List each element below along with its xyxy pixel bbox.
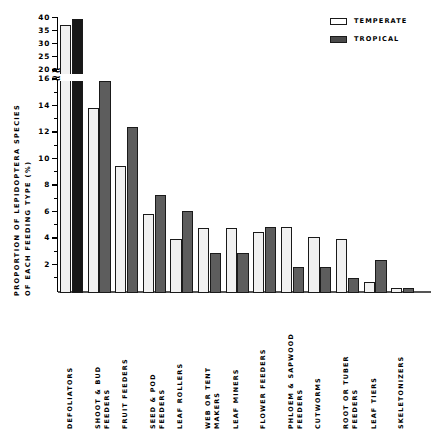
bar-tropical-10 <box>348 278 359 293</box>
y-tick-label-text: 35 <box>26 26 50 35</box>
y-tick-2 <box>52 264 57 265</box>
bar-temperate-7 <box>253 232 264 293</box>
y-tick-label-16: 16 <box>26 74 50 83</box>
y-tick-label-text: 6 <box>26 207 50 216</box>
category-label-line: LEAF MINERS <box>232 368 240 429</box>
category-label-line: DEFOLIATORS <box>66 367 74 429</box>
category-label-line: SHOOT & BUD <box>94 366 102 429</box>
y-tick-10 <box>52 158 57 159</box>
y-tick-12 <box>52 131 57 132</box>
category-label-line: MAKERS <box>213 392 221 429</box>
y-tick-label-6: 6 <box>26 207 50 216</box>
y-minor-tick-7 <box>54 198 58 199</box>
category-label-line: FRUIT FEEDERS <box>121 358 129 429</box>
bar-temperate-5 <box>198 228 209 293</box>
y-tick-label-35: 35 <box>26 26 50 35</box>
bar-tropical-0-lower <box>72 81 83 293</box>
y-tick-label-40: 40 <box>26 13 50 22</box>
y-tick-label-8: 8 <box>26 180 50 189</box>
plot-area <box>58 14 430 292</box>
bar-temperate-9 <box>308 237 319 293</box>
y-tick-40 <box>52 17 57 18</box>
y-tick-label-12: 12 <box>26 127 50 136</box>
bar-temperate-4 <box>170 239 181 293</box>
x-axis-category-labels: DEFOLIATORSSHOOT & BUDFEEDERSFRUIT FEEDE… <box>58 293 431 433</box>
y-tick-14 <box>52 105 57 106</box>
y-tick-label-10: 10 <box>26 154 50 163</box>
bar-temperate-0-upper <box>60 25 71 74</box>
bar-tropical-5 <box>210 253 221 293</box>
y-tick-label-text: 10 <box>26 154 50 163</box>
category-label-line: CUTWORMS <box>314 377 322 429</box>
category-label-line: SKELETONIZERS <box>397 356 405 429</box>
bar-tropical-9 <box>320 267 331 294</box>
y-tick-4 <box>52 237 57 238</box>
bar-tropical-0-upper <box>72 19 83 74</box>
y-tick-25 <box>52 56 57 57</box>
category-label-line: LEAF TIERS <box>370 377 378 429</box>
bar-temperate-8 <box>281 227 292 293</box>
y-tick-label-text: 14 <box>26 101 50 110</box>
y-tick-30 <box>52 43 57 44</box>
bar-temperate-0-lower <box>60 81 71 293</box>
y-tick-label-25: 25 <box>26 52 50 61</box>
legend-swatch-tropical <box>330 36 347 43</box>
bar-temperate-11 <box>364 282 375 293</box>
y-minor-tick-9 <box>54 171 58 172</box>
y-minor-tick-1 <box>54 277 58 278</box>
y-tick-label-text: 30 <box>26 39 50 48</box>
y-axis-title-line1: PROPORTION OF LEPIDOPTERA SPECIES <box>13 104 21 296</box>
category-label-line: FEEDERS <box>296 389 304 429</box>
bar-temperate-6 <box>226 228 237 293</box>
y-minor-tick-13 <box>54 118 58 119</box>
bar-tropical-1 <box>99 81 110 293</box>
y-tick-label-2: 2 <box>26 260 50 269</box>
y-tick-label-4: 4 <box>26 233 50 242</box>
y-minor-tick-11 <box>54 145 58 146</box>
y-tick-label-text: 4 <box>26 233 50 242</box>
bar-tropical-3 <box>155 195 166 293</box>
category-label-line: FLOWER FEEDERS <box>259 348 267 429</box>
legend-swatch-temperate <box>330 18 347 25</box>
y-minor-tick-3 <box>54 251 58 252</box>
bar-temperate-2 <box>115 166 126 293</box>
y-minor-tick-5 <box>54 224 58 225</box>
bar-tropical-4 <box>182 211 193 293</box>
y-tick-label-20: 20 <box>26 65 50 74</box>
category-label-line: LEAF ROLLERS <box>176 363 184 429</box>
bar-tropical-2 <box>127 127 138 293</box>
legend-label-temperate: TEMPERATE <box>354 17 407 25</box>
bar-tropical-8 <box>293 267 304 294</box>
legend-label-tropical: TROPICAL <box>354 35 399 43</box>
y-tick-label-text: 12 <box>26 127 50 136</box>
bar-temperate-10 <box>336 239 347 293</box>
category-label-line: ROOT OR TUBER <box>342 355 350 429</box>
y-tick-label-text: 25 <box>26 52 50 61</box>
y-tick-label-30: 30 <box>26 39 50 48</box>
category-label-line: FEEDERS <box>351 389 359 429</box>
y-minor-tick-15 <box>54 92 58 93</box>
y-tick-35 <box>52 30 57 31</box>
y-tick-6 <box>52 211 57 212</box>
y-tick-label-text: 40 <box>26 13 50 22</box>
bar-tropical-11 <box>375 260 386 293</box>
bar-tropical-6 <box>237 253 248 293</box>
chart-figure: PROPORTION OF LEPIDOPTERA SPECIES OF EAC… <box>0 0 436 433</box>
category-label-line: FEEDERS <box>158 389 166 429</box>
y-tick-label-text: 20 <box>26 65 50 74</box>
category-label-line: WEB OR TENT <box>204 367 212 429</box>
bar-temperate-1 <box>88 108 99 294</box>
bar-temperate-3 <box>143 214 154 294</box>
category-label-line: SEED & POD <box>149 373 157 429</box>
y-tick-label-text: 8 <box>26 180 50 189</box>
category-label-line: FEEDERS <box>103 389 111 429</box>
category-label-line: PHLOEM & SAPWOOD <box>287 333 295 429</box>
chart-legend: TEMPERATETROPICAL <box>330 17 430 51</box>
y-tick-label-text: 16 <box>26 74 50 83</box>
y-tick-8 <box>52 184 57 185</box>
bar-tropical-7 <box>265 227 276 293</box>
y-tick-label-14: 14 <box>26 101 50 110</box>
y-tick-label-text: 2 <box>26 260 50 269</box>
